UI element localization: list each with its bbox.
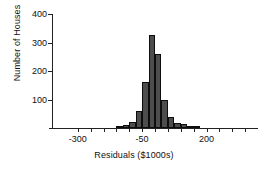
- x-tick-mark: [91, 128, 92, 132]
- y-tick-mark: [48, 14, 52, 15]
- y-tick-mark: [48, 43, 52, 44]
- x-tick-mark: [142, 128, 143, 132]
- histogram-chart: Number of Houses Residuals ($1000s) 1002…: [0, 0, 268, 169]
- histogram-bar: [194, 126, 200, 128]
- x-tick-mark: [78, 128, 79, 132]
- x-tick-mark: [207, 128, 208, 132]
- y-tick-label: 400: [32, 9, 47, 19]
- x-tick-label: -50: [136, 134, 149, 144]
- y-tick-label: 200: [32, 66, 47, 76]
- y-tick-mark: [48, 71, 52, 72]
- y-axis-line: [52, 14, 53, 129]
- x-tick-mark: [168, 128, 169, 132]
- x-tick-mark: [116, 128, 117, 132]
- x-axis-line: [49, 128, 258, 129]
- x-tick-label: 200: [199, 134, 214, 144]
- y-tick-label: 300: [32, 38, 47, 48]
- y-axis-title: Number of Houses: [12, 0, 26, 93]
- x-tick-mark: [232, 128, 233, 132]
- y-tick-mark: [48, 100, 52, 101]
- x-axis-title: Residuals ($1000s): [0, 150, 268, 160]
- y-tick-label: 100: [32, 95, 47, 105]
- x-tick-mark: [129, 128, 130, 132]
- x-tick-mark: [245, 128, 246, 132]
- plot-area: 100200300400 -300-50200: [52, 14, 258, 128]
- x-tick-mark: [104, 128, 105, 132]
- x-tick-mark: [219, 128, 220, 132]
- x-tick-mark: [194, 128, 195, 132]
- x-tick-mark: [155, 128, 156, 132]
- x-tick-mark: [181, 128, 182, 132]
- x-tick-label: -300: [69, 134, 87, 144]
